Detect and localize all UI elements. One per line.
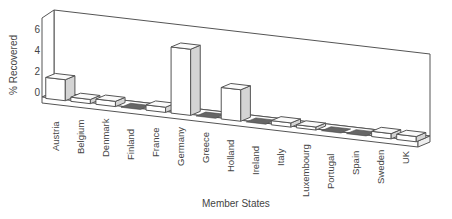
bar-chart-3d: % Recovered 0 2 4 6 AustriaBelgiumDenmar… xyxy=(0,0,452,219)
bar-austria xyxy=(46,73,75,100)
y-tick-4: 4 xyxy=(28,45,40,56)
x-tick-ireland: Ireland xyxy=(250,145,261,174)
bar-uk xyxy=(397,130,426,142)
x-tick-greece: Greece xyxy=(200,132,211,163)
y-tick-6: 6 xyxy=(28,24,40,35)
bar-germany xyxy=(171,43,200,115)
x-tick-italy: Italy xyxy=(275,149,286,166)
x-tick-portugal: Portugal xyxy=(325,154,336,189)
bar-holland xyxy=(221,83,250,121)
y-axis-label: % Recovered xyxy=(8,35,19,95)
x-tick-uk: UK xyxy=(400,151,411,164)
x-tick-france: France xyxy=(150,128,161,158)
x-tick-austria: Austria xyxy=(50,122,61,152)
x-tick-holland: Holland xyxy=(225,139,236,171)
bar-denmark xyxy=(96,95,125,107)
x-axis-label: Member States xyxy=(202,198,270,209)
x-tick-spain: Spain xyxy=(350,151,361,175)
x-tick-belgium: Belgium xyxy=(75,120,86,154)
x-tick-germany: Germany xyxy=(175,127,186,166)
x-tick-sweden: Sweden xyxy=(375,149,386,183)
y-tick-0: 0 xyxy=(28,87,40,98)
plot-area xyxy=(0,0,452,219)
x-tick-finland: Finland xyxy=(125,129,136,160)
y-tick-2: 2 xyxy=(28,66,40,77)
x-tick-luxembourg: Luxembourg xyxy=(300,144,311,197)
x-tick-denmark: Denmark xyxy=(100,118,111,157)
